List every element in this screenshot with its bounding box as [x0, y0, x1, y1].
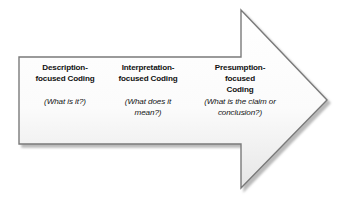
stage-description: Description- focused Coding (What is it?… — [27, 62, 103, 107]
stage-interpretation-question: (What does it mean?) — [106, 96, 190, 118]
stage-interpretation-heading: Interpretation- focused Coding — [106, 62, 190, 84]
stage-label-layer: Description- focused Coding (What is it?… — [0, 0, 339, 198]
coding-process-diagram: Description- focused Coding (What is it?… — [0, 0, 339, 198]
stage-presumption-heading: Presumption- focused Coding — [191, 62, 289, 95]
stage-interpretation: Interpretation- focused Coding (What doe… — [106, 62, 190, 118]
stage-presumption-question: (What is the claim or conclusion?) — [191, 96, 289, 118]
stage-presumption: Presumption- focused Coding (What is the… — [191, 62, 289, 118]
stage-description-question: (What is it?) — [27, 96, 103, 107]
stage-description-heading: Description- focused Coding — [27, 62, 103, 84]
